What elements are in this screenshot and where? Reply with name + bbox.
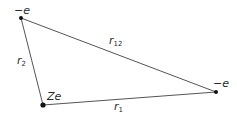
- edge-r2-label: r2: [17, 54, 26, 68]
- electron1-label: −e: [14, 4, 30, 17]
- electron2-point: [214, 90, 218, 94]
- edge-r12: [21, 18, 216, 92]
- edge-r1: [43, 92, 216, 105]
- nucleus-label: Ze: [46, 90, 62, 103]
- triangle-diagram: −e Ze −e r2 r12 r1: [0, 0, 237, 116]
- edge-r12-label: r12: [109, 34, 122, 48]
- nucleus-point: [40, 102, 45, 107]
- edge-r1-label: r1: [114, 100, 123, 114]
- electron2-label: −e: [213, 77, 229, 90]
